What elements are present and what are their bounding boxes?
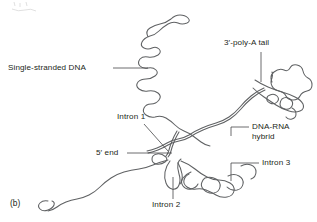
- intron-3-loop: [181, 161, 256, 197]
- label-intron-3: Intron 3: [262, 158, 290, 168]
- label-poly-a-tail: 3′-poly-A tail: [224, 38, 269, 48]
- molecule-tracing-diagram: [0, 0, 317, 222]
- label-dna-rna-hybrid: DNA-RNA hybrid: [252, 122, 290, 141]
- dna-rna-hybrid-segment: [147, 88, 265, 153]
- figure-panel-b: Single-stranded DNA 3′-poly-A tail DNA-R…: [0, 0, 317, 222]
- leader-intron-1: [144, 124, 168, 151]
- top-crop-artifact: [12, 2, 36, 11]
- label-intron-1: Intron 1: [117, 112, 145, 122]
- leader-dna-rna-hybrid: [231, 127, 249, 136]
- label-five-prime-end: 5′ end: [96, 148, 118, 158]
- label-intron-2: Intron 2: [152, 200, 180, 210]
- panel-label-b: (b): [10, 198, 20, 208]
- leader-intron-3: [231, 163, 259, 181]
- leader-lines: [113, 52, 261, 199]
- five-prime-end-strand: [39, 160, 169, 211]
- label-single-stranded-dna: Single-stranded DNA: [8, 63, 86, 73]
- intron-2-loop: [165, 159, 183, 189]
- single-stranded-dna-strand: [137, 15, 210, 146]
